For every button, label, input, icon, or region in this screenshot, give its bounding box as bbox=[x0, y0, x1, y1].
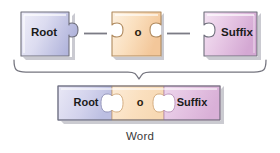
puzzle-piece-root bbox=[21, 12, 78, 56]
puzzle-piece-suffix bbox=[204, 12, 257, 56]
figure-container: Root o Suffix Root o Suffix Word bbox=[0, 0, 280, 153]
puzzle-piece-o bbox=[112, 12, 161, 56]
figure-caption: Word bbox=[0, 130, 280, 142]
assembled-segment-root bbox=[58, 86, 112, 120]
assembled-segment-o bbox=[112, 86, 164, 120]
curly-brace-down-icon bbox=[14, 60, 266, 79]
assembled-segment-suffix bbox=[164, 86, 220, 120]
